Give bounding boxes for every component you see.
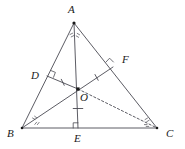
bisector-A-E <box>74 23 78 128</box>
bisector-O-C <box>78 89 157 128</box>
label-B: B <box>7 128 14 139</box>
right-angle-at-E <box>73 123 78 128</box>
right-angle-at-D <box>51 70 56 77</box>
right-angle-at-F <box>106 58 114 62</box>
label-D: D <box>31 70 39 81</box>
side-AC <box>74 23 157 128</box>
label-O: O <box>80 92 88 103</box>
point-C <box>156 127 159 130</box>
label-F: F <box>122 54 129 65</box>
label-E: E <box>74 133 81 144</box>
geometry-figure <box>0 0 185 149</box>
point-B <box>21 127 24 130</box>
diagram-canvas: A B C D E F O <box>0 0 185 149</box>
side-AB <box>22 23 74 128</box>
point-A <box>72 21 75 24</box>
label-A: A <box>68 4 75 15</box>
label-C: C <box>166 128 173 139</box>
